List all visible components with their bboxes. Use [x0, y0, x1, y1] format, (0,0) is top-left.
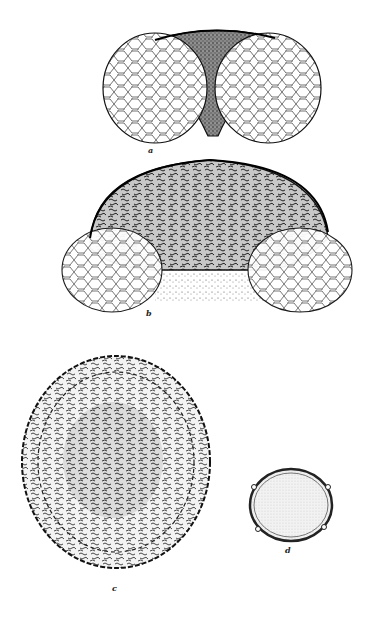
figure-a-label: a	[148, 145, 153, 155]
grain-b-sac-right	[248, 228, 352, 312]
grain-a-sac-right	[215, 33, 321, 143]
figure-a	[100, 26, 325, 148]
figure-c-label: c	[112, 583, 117, 593]
figure-b-label: b	[146, 308, 152, 318]
figure-d-label: d	[285, 545, 291, 555]
grain-d-body	[250, 469, 332, 541]
figure-d	[246, 465, 336, 545]
grain-c-center	[63, 402, 163, 518]
grain-a-sac-left	[103, 33, 207, 143]
figure-c	[18, 352, 214, 572]
grain-b-sac-left	[62, 228, 162, 312]
figure-b	[60, 158, 356, 313]
